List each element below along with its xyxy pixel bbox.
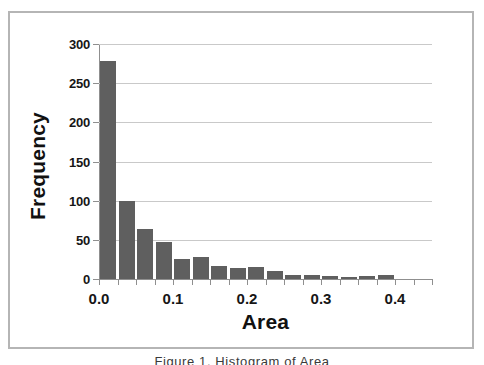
figure-frame: Frequency 050100150200250300 0.00.10.20.…: [8, 11, 474, 349]
bar: [322, 276, 338, 279]
gridline: [99, 122, 432, 123]
x-axis-tick: [210, 279, 211, 285]
bar: [230, 268, 246, 279]
y-axis-tick-label: 300: [69, 37, 90, 52]
x-axis-tick: [358, 279, 359, 285]
x-axis-tick: [340, 279, 341, 285]
x-axis-tick-label: 0.3: [311, 290, 332, 307]
x-axis-tick: [192, 279, 193, 285]
x-axis-tick: [432, 279, 433, 285]
y-axis-tick-label: 0: [83, 272, 90, 287]
bar: [174, 259, 190, 279]
x-axis-tick: [173, 279, 174, 285]
x-axis-tick: [377, 279, 378, 285]
x-axis-tick: [284, 279, 285, 285]
gridline: [99, 83, 432, 84]
x-axis-tick: [321, 279, 322, 285]
bar: [285, 275, 301, 279]
bar: [119, 201, 135, 279]
x-axis-tick: [303, 279, 304, 285]
bar: [193, 257, 209, 279]
x-axis-tick-label: 0.2: [237, 290, 258, 307]
y-axis-tick: [93, 162, 99, 163]
x-axis-tick: [99, 279, 100, 285]
gridline: [99, 162, 432, 163]
y-axis-tick-label: 50: [76, 232, 90, 247]
x-axis-tick: [414, 279, 415, 285]
gridline: [99, 201, 432, 202]
x-axis-tick: [155, 279, 156, 285]
y-axis-tick-label: 200: [69, 115, 90, 130]
bar: [248, 267, 264, 279]
x-axis-tick-label: 0.1: [163, 290, 184, 307]
x-axis-title: Area: [99, 310, 432, 334]
figure-caption-text: Figure 1. Histogram of Area: [0, 355, 484, 365]
plot-area: 050100150200250300 0.00.10.20.30.4: [99, 44, 432, 279]
bar: [378, 275, 394, 279]
y-axis-title: Frequency: [24, 73, 52, 258]
bar: [100, 61, 116, 279]
x-axis-tick: [395, 279, 396, 285]
figure-caption: Figure 1. Histogram of Area: [0, 355, 484, 365]
y-axis-tick: [93, 201, 99, 202]
bar: [341, 277, 357, 279]
y-axis-tick: [93, 240, 99, 241]
x-axis-tick-label: 0.0: [89, 290, 110, 307]
y-axis-tick-label: 100: [69, 193, 90, 208]
x-axis-tick: [136, 279, 137, 285]
x-axis-tick-label: 0.4: [385, 290, 406, 307]
y-axis-tick: [93, 83, 99, 84]
y-axis-tick: [93, 44, 99, 45]
y-axis-tick-label: 250: [69, 76, 90, 91]
x-axis-tick: [118, 279, 119, 285]
bar: [304, 275, 320, 279]
bar: [137, 229, 153, 279]
x-axis-tick: [229, 279, 230, 285]
x-axis-tick: [247, 279, 248, 285]
y-axis-tick: [93, 122, 99, 123]
bar: [211, 266, 227, 279]
gridline: [99, 44, 432, 45]
bar: [359, 276, 375, 279]
bar: [156, 242, 172, 279]
y-axis-tick-label: 150: [69, 154, 90, 169]
x-axis-tick: [266, 279, 267, 285]
y-axis-title-label: Frequency: [26, 112, 50, 220]
bar: [267, 271, 283, 279]
